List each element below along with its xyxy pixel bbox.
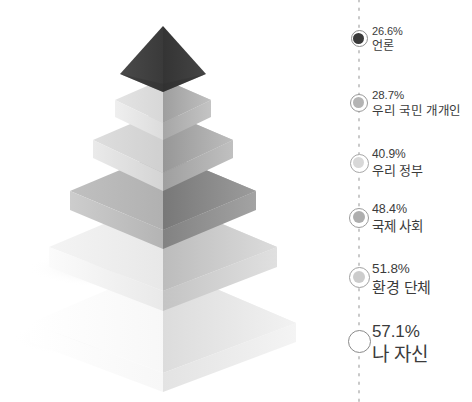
legend-marker-icon[interactable] (351, 30, 368, 47)
legend-text-group: 26.6% 언론 (372, 24, 403, 54)
legend-label: 국제 사회 (372, 218, 423, 236)
legend-percent: 57.1% (372, 321, 427, 343)
legend-percent: 40.9% (372, 147, 423, 163)
legend-label: 나 자신 (372, 343, 427, 368)
legend-percent: 51.8% (372, 260, 431, 278)
legend-marker-core (353, 33, 364, 44)
legend-marker-core (353, 211, 365, 223)
legend-marker-icon[interactable] (348, 330, 371, 353)
legend-label: 우리 정부 (372, 163, 423, 180)
pyramid-tier-apex (120, 26, 206, 92)
legend-marker-icon[interactable] (349, 208, 369, 228)
legend-text-group: 51.8% 환경 단체 (372, 260, 431, 297)
legend-text-group: 28.7% 우리 국민 개개인 (372, 88, 461, 119)
legend-label: 언론 (372, 39, 403, 55)
legend-percent: 28.7% (372, 88, 461, 103)
legend-marker-core (353, 97, 364, 108)
legend-percent: 48.4% (372, 201, 423, 218)
pyramid-chart: 26.6% 언론 28.7% 우리 국민 개개인 40.9% 우리 정부 (0, 0, 472, 402)
legend-label: 우리 국민 개개인 (372, 103, 461, 119)
legend-label: 환경 단체 (372, 278, 431, 298)
legend-text-group: 57.1% 나 자신 (372, 321, 427, 368)
legend-marker-core (353, 157, 364, 168)
legend-marker-icon[interactable] (349, 267, 370, 288)
legend-percent: 26.6% (372, 24, 403, 39)
legend-marker-core (353, 271, 365, 283)
legend-marker-icon[interactable] (350, 94, 368, 112)
pyramid-graphic (0, 0, 330, 402)
pyramid-svg (0, 0, 330, 402)
legend-text-group: 40.9% 우리 정부 (372, 147, 423, 180)
legend: 26.6% 언론 28.7% 우리 국민 개개인 40.9% 우리 정부 (336, 0, 472, 402)
legend-marker-icon[interactable] (350, 154, 369, 173)
legend-text-group: 48.4% 국제 사회 (372, 201, 423, 235)
